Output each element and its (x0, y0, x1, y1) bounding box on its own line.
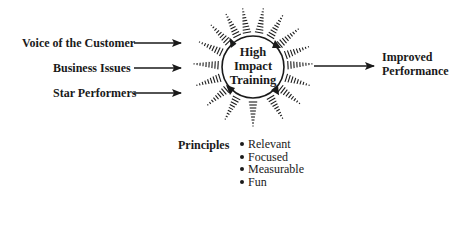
principles-list: Relevant Focused Measurable Fun (240, 138, 304, 188)
principles-heading: Principles (178, 138, 229, 152)
bullet-icon (240, 155, 244, 159)
output-line-1: Improved (382, 50, 449, 64)
input-label-business-issues: Business Issues (53, 61, 131, 75)
principle-item: Fun (240, 176, 304, 189)
center-line-3: Training (222, 73, 284, 87)
input-label-star-performers: Star Performers (53, 86, 136, 100)
center-line-1: High (222, 45, 284, 59)
output-line-2: Performance (382, 64, 449, 78)
input-label-voice-of-customer: Voice of the Customer (22, 36, 135, 50)
bullet-icon (240, 142, 244, 146)
bullet-icon (240, 167, 244, 171)
center-line-2: Impact (222, 59, 284, 73)
bullet-icon (240, 180, 244, 184)
output-label: Improved Performance (382, 50, 449, 78)
center-label: High Impact Training (222, 45, 284, 87)
